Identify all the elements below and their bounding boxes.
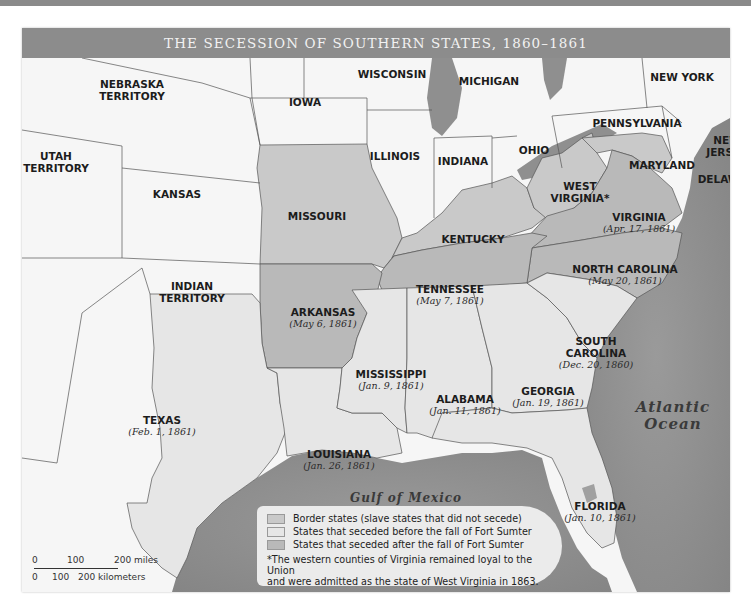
secession-date: (Apr. 17, 1861) — [603, 223, 675, 235]
region-name: OHIO — [519, 144, 550, 156]
label-west-virginia: WESTVIRGINIA* — [551, 180, 610, 204]
legend: Border states (slave states that did not… — [257, 506, 562, 586]
label-iowa: IOWA — [289, 96, 321, 108]
region-name: INDIAN — [171, 280, 213, 292]
legend-swatch — [267, 540, 285, 550]
region-name: NEW — [713, 134, 730, 146]
label-utah-territory: UTAHTERRITORY — [23, 150, 89, 174]
scale-tick: 100 — [52, 572, 69, 582]
scale-tick: 0 — [32, 572, 38, 582]
region-name: MARYLAND — [629, 159, 695, 171]
secession-date: (Jan. 9, 1861) — [356, 380, 427, 392]
scale-bar: 0 100 200 miles 0 100 200 kilometers — [32, 555, 182, 589]
region-name: ILLINOIS — [370, 150, 420, 162]
label-kansas: KANSAS — [153, 188, 201, 200]
secession-date: (Feb. 1, 1861) — [128, 426, 196, 438]
region-name: MICHIGAN — [459, 75, 519, 87]
secession-date: (Jan. 11, 1861) — [429, 405, 500, 417]
region-name: IOWA — [289, 96, 321, 108]
legend-swatch — [267, 514, 285, 524]
region-name-2: TERRITORY — [159, 292, 225, 304]
region-name-2: CAROLINA — [566, 347, 626, 359]
label-louisiana: LOUISIANA(Jan. 26, 1861) — [303, 448, 374, 472]
region-name: MISSOURI — [288, 210, 346, 222]
region-name: TENNESSEE — [416, 283, 484, 295]
legend-label: States that seceded before the fall of F… — [293, 526, 532, 537]
legend-swatch — [267, 527, 285, 537]
footnote-line-1: *The western counties of Virginia remain… — [267, 554, 532, 576]
label-gulf-of-mexico: Gulf of Mexico — [350, 491, 462, 505]
region-name: INDIANA — [438, 155, 488, 167]
region-name: ARKANSAS — [291, 306, 356, 318]
label-indiana: INDIANA — [438, 155, 488, 167]
map-title: THE SECESSION OF SOUTHERN STATES, 1860–1… — [164, 35, 588, 51]
label-texas: TEXAS(Feb. 1, 1861) — [128, 414, 196, 438]
label-south-carolina: SOUTHCAROLINA(Dec. 20, 1860) — [559, 335, 633, 371]
secession-date: (Jan. 26, 1861) — [303, 460, 374, 472]
scale-tick: 100 — [67, 555, 84, 565]
region-name: MISSISSIPPI — [356, 368, 427, 380]
legend-item-seceded-after: States that seceded after the fall of Fo… — [267, 538, 552, 551]
label-missouri: MISSOURI — [288, 210, 346, 222]
footnote-line-2: and were admitted as the state of West V… — [267, 576, 539, 587]
secession-date: (Dec. 20, 1860) — [559, 359, 633, 371]
label-ohio: OHIO — [519, 144, 550, 156]
water-name: Atlantic — [636, 398, 710, 416]
label-nebraska-territory: NEBRASKATERRITORY — [99, 78, 165, 102]
label-kentucky: KENTUCKY — [441, 233, 504, 245]
region-name: ALABAMA — [436, 393, 494, 405]
region-name: DELAWARE — [698, 173, 730, 185]
region-name-2: VIRGINIA* — [551, 192, 610, 204]
label-delaware: DELAWARE — [698, 173, 730, 185]
label-georgia: GEORGIA(Jan. 19, 1861) — [512, 385, 583, 409]
secession-date: (Jan. 10, 1861) — [564, 512, 635, 524]
region-name: NEW YORK — [650, 71, 714, 83]
legend-footnote: *The western counties of Virginia remain… — [267, 554, 552, 587]
label-alabama: ALABAMA(Jan. 11, 1861) — [429, 393, 500, 417]
region-name-2: JERSEY — [706, 146, 730, 158]
label-new-jersey: NEWJERSEY — [706, 134, 730, 158]
scale-line — [34, 568, 118, 569]
region-name: SOUTH — [576, 335, 617, 347]
label-virginia: VIRGINIA(Apr. 17, 1861) — [603, 211, 675, 235]
legend-item-seceded-before: States that seceded before the fall of F… — [267, 525, 552, 538]
label-new-york: NEW YORK — [650, 71, 714, 83]
secession-date: (May 20, 1861) — [572, 275, 677, 287]
legend-label: Border states (slave states that did not… — [293, 513, 522, 524]
region-name: UTAH — [40, 150, 72, 162]
legend-label: States that seceded after the fall of Fo… — [293, 539, 524, 550]
label-michigan: MICHIGAN — [459, 75, 519, 87]
region-name: FLORIDA — [574, 500, 625, 512]
region-name: WISCONSIN — [358, 68, 427, 80]
region-name: KANSAS — [153, 188, 201, 200]
secession-date: (Jan. 19, 1861) — [512, 397, 583, 409]
label-atlantic-ocean: AtlanticOcean — [636, 399, 710, 433]
secession-date: (May 7, 1861) — [416, 295, 484, 307]
label-wisconsin: WISCONSIN — [358, 68, 427, 80]
scale-tick: 0 — [32, 555, 38, 565]
top-border — [0, 0, 751, 6]
label-pennsylvania: PENNSYLVANIA — [592, 117, 681, 129]
map-frame: THE SECESSION OF SOUTHERN STATES, 1860–1… — [22, 28, 730, 592]
label-tennessee: TENNESSEE(May 7, 1861) — [416, 283, 484, 307]
secession-date: (May 6, 1861) — [289, 318, 356, 330]
label-north-carolina: NORTH CAROLINA(May 20, 1861) — [572, 263, 677, 287]
label-arkansas: ARKANSAS(May 6, 1861) — [289, 306, 356, 330]
label-mississippi: MISSISSIPPI(Jan. 9, 1861) — [356, 368, 427, 392]
region-name-2: TERRITORY — [99, 90, 165, 102]
scale-tick: 200 kilometers — [78, 572, 146, 582]
water-name-2: Ocean — [644, 415, 701, 433]
region-name: KENTUCKY — [441, 233, 504, 245]
label-indian-territory: INDIANTERRITORY — [159, 280, 225, 304]
region-name-2: TERRITORY — [23, 162, 89, 174]
region-name: WEST — [563, 180, 596, 192]
label-illinois: ILLINOIS — [370, 150, 420, 162]
region-name: TEXAS — [143, 414, 181, 426]
region-name: VIRGINIA — [612, 211, 665, 223]
legend-item-border-states: Border states (slave states that did not… — [267, 512, 552, 525]
region-name: NORTH CAROLINA — [572, 263, 677, 275]
label-florida: FLORIDA(Jan. 10, 1861) — [564, 500, 635, 524]
region-name: NEBRASKA — [100, 78, 164, 90]
label-maryland: MARYLAND — [629, 159, 695, 171]
region-name: LOUISIANA — [307, 448, 371, 460]
